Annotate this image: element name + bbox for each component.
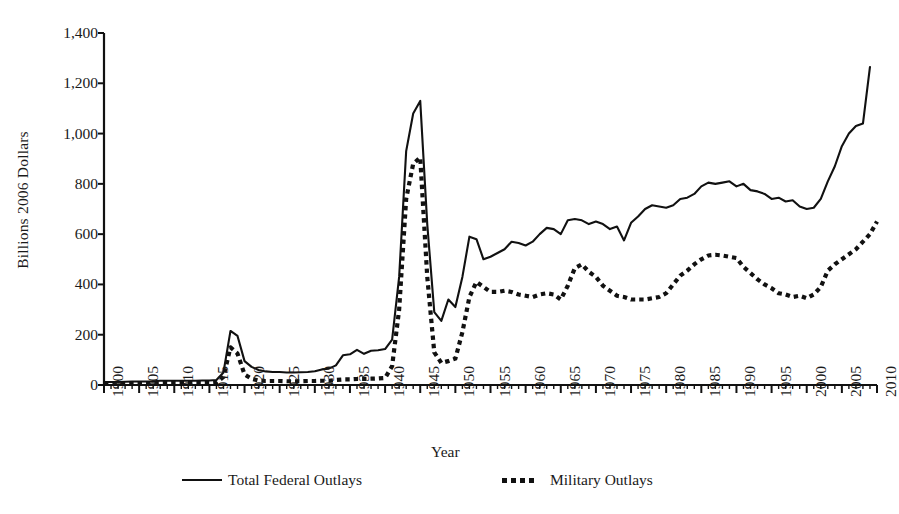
x-axis-ticks <box>104 385 877 393</box>
legend-dotted-line-icon <box>500 473 544 487</box>
y-tick-label: 1,400 <box>63 25 98 41</box>
y-tick-label: 200 <box>75 327 98 343</box>
series-line-total-federal-outlays <box>104 67 870 382</box>
legend-label-military: Military Outlays <box>550 471 653 489</box>
x-tick-label: 2010 <box>883 366 899 397</box>
y-tick-label: 800 <box>75 176 98 192</box>
legend-item-military-outlays: Military Outlays <box>500 471 653 489</box>
series-line-military-outlays <box>104 157 877 383</box>
x-axis-title: Year <box>431 443 460 461</box>
y-tick-label: 1,200 <box>63 76 98 92</box>
chart-legend: Total Federal Outlays Military Outlays <box>0 468 885 498</box>
axis-lines <box>104 33 877 385</box>
y-tick-label: 400 <box>75 277 98 293</box>
y-tick-label: 1,000 <box>63 126 98 142</box>
legend-solid-line-icon <box>182 473 222 487</box>
y-axis-tick-labels: 02004006008001,0001,2001,400 <box>26 0 98 400</box>
legend-item-total-federal-outlays: Total Federal Outlays <box>182 471 362 489</box>
legend-label-total: Total Federal Outlays <box>228 471 362 489</box>
y-tick-label: 600 <box>75 226 98 242</box>
y-tick-label: 0 <box>90 377 98 393</box>
